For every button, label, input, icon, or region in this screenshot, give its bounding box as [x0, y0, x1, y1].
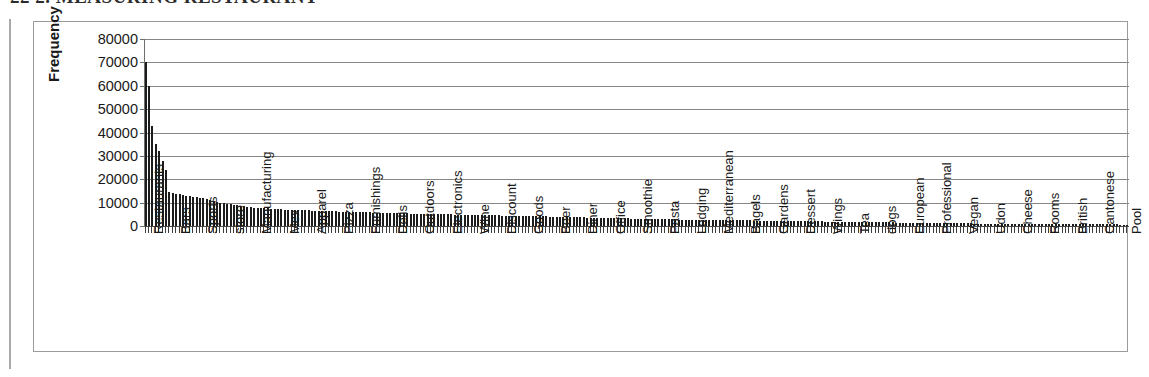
- bar: [549, 217, 551, 226]
- bar: [359, 212, 361, 226]
- x-tick-mark: [501, 226, 502, 233]
- y-tick-mark: [140, 133, 145, 134]
- x-tick-mark: [525, 226, 526, 233]
- x-tick-mark: [956, 226, 957, 233]
- bar: [304, 210, 306, 226]
- bar: [610, 218, 612, 226]
- x-tick-label: Manufacturing: [259, 152, 274, 234]
- x-tick-mark: [528, 226, 529, 233]
- x-tick-label: Sports: [205, 196, 220, 234]
- x-tick-mark: [739, 226, 740, 233]
- x-tick-mark: [1038, 226, 1039, 233]
- bar: [280, 209, 282, 226]
- x-tick-mark: [821, 226, 822, 233]
- x-tick-mark: [338, 226, 339, 233]
- x-tick-mark: [277, 226, 278, 233]
- x-tick-label: dogs: [884, 206, 899, 234]
- x-tick-label: Diner: [585, 203, 600, 234]
- x-tick-mark: [308, 226, 309, 233]
- x-tick-mark: [936, 226, 937, 233]
- x-tick-mark: [467, 226, 468, 233]
- bar: [148, 86, 150, 226]
- bar: [467, 215, 469, 226]
- x-tick-mark: [929, 226, 930, 233]
- x-tick-label: Bars: [178, 207, 193, 234]
- bar: [437, 214, 439, 226]
- x-tick-label: Tea: [857, 213, 872, 234]
- x-tick-mark: [800, 226, 801, 233]
- x-tick-mark: [987, 226, 988, 233]
- x-tick-mark: [556, 226, 557, 233]
- x-tick-mark: [145, 226, 146, 233]
- y-tick-mark: [140, 203, 145, 204]
- bar: [603, 218, 605, 226]
- y-tick-mark: [140, 62, 145, 63]
- x-tick-mark: [413, 226, 414, 233]
- bar: [226, 204, 228, 226]
- x-tick-mark: [365, 226, 366, 233]
- x-tick-label: Office: [613, 200, 628, 234]
- bar: [501, 216, 503, 226]
- x-tick-mark: [685, 226, 686, 233]
- bar: [199, 198, 201, 226]
- x-tick-label: Outdoors: [422, 181, 437, 234]
- x-tick-label: Discount: [504, 183, 519, 234]
- x-tick-label: Professional: [939, 162, 954, 234]
- x-tick-mark: [250, 226, 251, 233]
- x-tick-mark: [359, 226, 360, 233]
- x-tick-mark: [1011, 226, 1012, 233]
- bar-series: [144, 39, 1129, 226]
- x-tick-mark: [984, 226, 985, 233]
- y-tick-mark: [140, 156, 145, 157]
- x-tick-mark: [766, 226, 767, 233]
- x-tick-mark: [416, 226, 417, 233]
- x-tick-mark: [498, 226, 499, 233]
- x-tick-mark: [280, 226, 281, 233]
- x-tick-mark: [447, 226, 448, 233]
- x-tick-mark: [471, 226, 472, 233]
- x-tick-label: Cantonese: [1102, 171, 1117, 234]
- y-tick-mark: [140, 179, 145, 180]
- x-tick-mark: [1072, 226, 1073, 233]
- x-tick-mark: [202, 226, 203, 233]
- y-tick-label: 0: [130, 218, 138, 234]
- x-tick-mark: [1068, 226, 1069, 233]
- bar: [576, 217, 578, 226]
- x-tick-mark: [443, 226, 444, 233]
- bar: [413, 214, 415, 226]
- x-tick-mark: [797, 226, 798, 233]
- bar: [661, 219, 663, 226]
- x-tick-mark: [362, 226, 363, 233]
- x-tick-mark: [634, 226, 635, 233]
- bar: [440, 214, 442, 226]
- x-tick-mark: [1092, 226, 1093, 233]
- bar: [416, 214, 418, 226]
- x-tick-mark: [770, 226, 771, 233]
- x-tick-mark: [603, 226, 604, 233]
- x-tick-label: Vegan: [966, 197, 981, 234]
- bar: [474, 215, 476, 226]
- x-axis-tick-labels: RestaurantsBarsSportsstoreManufacturingM…: [144, 234, 1129, 344]
- x-tick-label: Dessert: [803, 189, 818, 234]
- x-tick-mark: [579, 226, 580, 233]
- x-tick-label: Mediterranean: [721, 150, 736, 234]
- bar: [637, 219, 639, 226]
- x-tick-mark: [199, 226, 200, 233]
- x-tick-mark: [793, 226, 794, 233]
- x-tick-mark: [148, 226, 149, 233]
- x-tick-label: Pool: [1129, 208, 1144, 234]
- bar: [338, 212, 340, 226]
- x-tick-mark: [909, 226, 910, 233]
- bar: [250, 207, 252, 226]
- x-tick-mark: [1065, 226, 1066, 233]
- bar: [284, 210, 286, 226]
- bar: [331, 211, 333, 226]
- x-tick-mark: [990, 226, 991, 233]
- x-tick-mark: [610, 226, 611, 233]
- x-tick-mark: [875, 226, 876, 233]
- x-tick-mark: [712, 226, 713, 233]
- bar: [172, 193, 174, 226]
- bar: [175, 194, 177, 226]
- y-tick-label: 80000: [98, 31, 138, 47]
- x-tick-mark: [311, 226, 312, 233]
